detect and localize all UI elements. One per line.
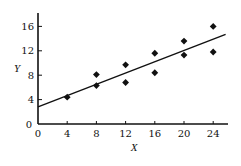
diamond-marker-icon	[210, 23, 217, 30]
diamond-marker-icon	[122, 61, 129, 68]
diamond-marker-icon	[151, 69, 158, 76]
x-tick-label: 8	[93, 128, 99, 139]
axes	[38, 13, 228, 124]
diamond-marker-icon	[151, 50, 158, 57]
x-tick-label: 4	[64, 128, 70, 139]
y-tick-label: 4	[28, 94, 34, 105]
diamond-marker-icon	[181, 52, 188, 59]
y-tick-label: 12	[21, 45, 34, 56]
x-tick-label: 16	[148, 128, 161, 139]
diamond-marker-icon	[93, 71, 100, 78]
diamond-marker-icon	[122, 79, 129, 86]
diamond-marker-icon	[210, 49, 217, 56]
tick-labels: 048121620240481216	[21, 21, 219, 139]
y-axis-label: Y	[14, 62, 22, 74]
x-tick-label: 12	[119, 128, 132, 139]
diamond-marker-icon	[181, 38, 188, 45]
data-points	[64, 23, 217, 101]
y-tick-label: 8	[28, 70, 34, 81]
y-tick-label: 0	[26, 119, 32, 130]
y-tick-label: 16	[21, 21, 34, 32]
x-tick-label: 20	[178, 128, 191, 139]
x-tick-label: 0	[35, 128, 41, 139]
scatter-chart: 048121620240481216 X Y	[0, 0, 241, 166]
x-axis-label: X	[130, 141, 139, 153]
x-tick-label: 24	[207, 128, 220, 139]
